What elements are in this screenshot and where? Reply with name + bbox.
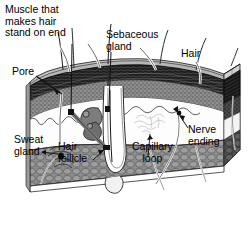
label-sebaceous-gland: Sebaceous gland [106, 29, 159, 52]
label-hair-follicle: Hair follicle [58, 141, 87, 164]
label-pore: Pore [12, 66, 34, 78]
label-muscle-that-makes-hair-stand-on-end: Muscle that makes hair stand on end [5, 4, 66, 39]
label-sweat-gland: Sweat gland [14, 134, 43, 157]
label-nerve-ending: Nerve ending [188, 124, 220, 147]
skin-cross-section-diagram: Muscle that makes hair stand on end Seba… [0, 0, 252, 225]
label-capillary-loop: Capillary loop [132, 141, 173, 164]
label-hair: Hair [181, 48, 200, 60]
skin-block-right-face [224, 48, 240, 166]
